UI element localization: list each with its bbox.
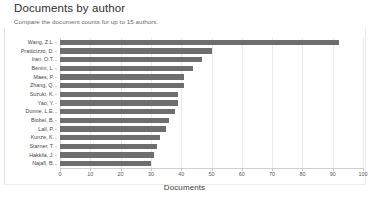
x-axis-title: Documents [0,183,369,192]
bar-row[interactable] [60,47,363,56]
y-axis-tick [55,138,57,139]
y-axis-label: Starner, T. [30,142,54,151]
bar[interactable] [60,152,154,157]
y-axis-label: Maes, P. [33,73,54,82]
x-axis-tick-label-50: 50 [209,171,215,177]
bar[interactable] [60,40,339,45]
y-axis-label: Benini, L. [32,64,54,73]
y-axis-label: Yao, Y. [38,99,55,108]
y-axis-tick [55,155,57,156]
y-axis-label: Kunze, K. [31,133,54,142]
y-axis-tick [55,86,57,87]
x-axis-tick-labels: 0102030405060708090100 [0,171,369,181]
y-axis-tick [55,112,57,113]
x-axis-tick-label-20: 20 [118,171,124,177]
y-axis-label: Hakkila, J. [29,151,54,160]
y-axis-label: Wang, Z.L. [28,38,54,47]
bar[interactable] [60,48,212,53]
bar[interactable] [60,74,184,79]
bar-series [60,38,363,168]
bar-row[interactable] [60,142,363,151]
bar-row[interactable] [60,159,363,168]
x-axis-tick-label-70: 70 [269,171,275,177]
y-axis-label: Zhang, Q. [30,81,54,90]
y-axis-label: Lall, P. [38,125,54,134]
y-axis-tick [55,146,57,147]
y-axis-label: Iran, O.T. [32,55,54,64]
bar[interactable] [60,100,178,105]
bar[interactable] [60,126,166,131]
y-axis-tick [55,60,57,61]
y-axis-label: Najafi, B. [32,159,54,168]
bar[interactable] [60,109,175,114]
plot-area [60,38,363,168]
y-axis-label: Biobel, B. [31,116,54,125]
bar[interactable] [60,118,169,123]
bar-row[interactable] [60,99,363,108]
x-axis-tick-label-30: 30 [148,171,154,177]
x-axis-tick-label-0: 0 [59,171,62,177]
x-axis-tick-label-10: 10 [87,171,93,177]
y-axis-label: Suzuki, K. [30,90,54,99]
y-axis-tick [55,164,57,165]
page-title: Documents by author [14,2,125,14]
x-axis-tick-label-90: 90 [330,171,336,177]
bar-row[interactable] [60,64,363,73]
x-axis-tick-label-60: 60 [239,171,245,177]
y-axis-tick [55,94,57,95]
bar-row[interactable] [60,55,363,64]
bar[interactable] [60,135,160,140]
y-axis-tick [55,42,57,43]
bar-row[interactable] [60,133,363,142]
bar-row[interactable] [60,151,363,160]
bar[interactable] [60,66,193,71]
bar-row[interactable] [60,38,363,47]
bar-row[interactable] [60,116,363,125]
x-axis-tick-label-100: 100 [359,171,368,177]
panel-border-right [365,28,366,184]
chart-widget: Documents by author Compare the document… [0,0,369,199]
y-axis-tick [55,51,57,52]
y-axis-labels: Wang, Z.L.Pratticizzo, D.Iran, O.T.Benin… [0,38,57,168]
y-axis-tick [55,77,57,78]
y-axis-label: Dunne, L.E. [26,107,54,116]
bar-row[interactable] [60,125,363,134]
y-axis-tick [55,103,57,104]
y-axis-tick [55,120,57,121]
bar-row[interactable] [60,73,363,82]
bar[interactable] [60,144,157,149]
y-axis-tick [55,129,57,130]
x-axis-tick-label-40: 40 [178,171,184,177]
bar[interactable] [60,83,184,88]
bar-row[interactable] [60,81,363,90]
bar[interactable] [60,92,178,97]
y-axis-tick [55,68,57,69]
page-subtitle: Compare the document counts for up to 15… [14,18,158,25]
bar-row[interactable] [60,107,363,116]
y-axis-label: Pratticizzo, D. [21,47,54,56]
bar[interactable] [60,161,151,166]
bar[interactable] [60,57,202,62]
gridline-100 [363,38,364,168]
bar-row[interactable] [60,90,363,99]
x-axis-tick-label-80: 80 [299,171,305,177]
